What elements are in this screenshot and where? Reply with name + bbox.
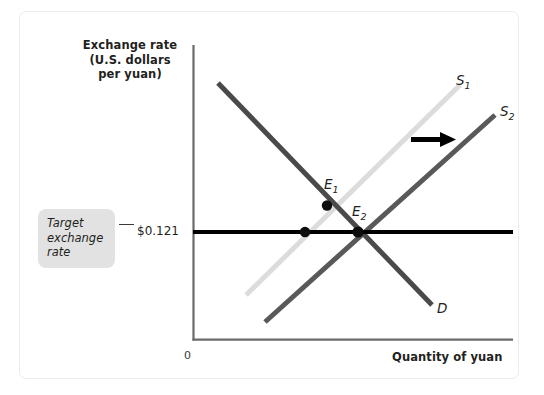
- point-s1-at-target: [300, 227, 310, 237]
- target-leader-dash: [119, 224, 134, 225]
- rightward-shift-arrow: [411, 132, 456, 147]
- supply-curve-s2-label: S2: [500, 103, 515, 122]
- target-exchange-rate-box: Target exchange rate: [38, 209, 115, 268]
- point-e2-label: E2: [352, 203, 367, 222]
- e1-label-sub: 1: [333, 184, 339, 195]
- e1-label-text: E: [324, 176, 333, 192]
- s2-label-text: S: [500, 103, 509, 119]
- point-e1-label: E1: [324, 176, 339, 195]
- s1-label-text: S: [456, 72, 465, 88]
- origin-label: 0: [184, 349, 191, 362]
- demand-curve-d-label: D: [437, 300, 447, 316]
- point-e1: [322, 200, 332, 210]
- supply-curve-s2: [265, 115, 495, 322]
- target-exchange-rate-value: $0.121: [137, 224, 179, 238]
- supply-curve-s1-label: S1: [456, 72, 471, 91]
- s2-label-sub: 2: [509, 111, 515, 122]
- s1-label-sub: 1: [465, 80, 471, 91]
- exchange-rate-figure: Exchange rate (U.S. dollars per yuan) Qu…: [0, 0, 544, 395]
- point-e2: [352, 226, 363, 237]
- x-axis-title: Quantity of yuan: [392, 350, 503, 364]
- e2-label-text: E: [352, 203, 361, 219]
- e2-label-sub: 2: [361, 211, 367, 222]
- y-axis-title: Exchange rate (U.S. dollars per yuan): [69, 38, 191, 82]
- supply-curve-s1: [246, 85, 460, 295]
